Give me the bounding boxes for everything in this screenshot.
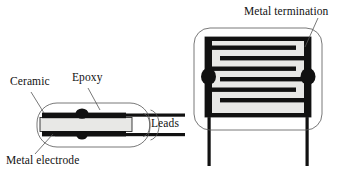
figure-canvas: Ceramic Epoxy Metal electrode Leads Meta… [0, 0, 345, 176]
capacitor-diagram [0, 0, 345, 176]
label-metal-termination: Metal termination [244, 6, 328, 18]
label-leads: Leads [151, 118, 179, 130]
label-ceramic: Ceramic [10, 76, 50, 88]
ceramic-body-left [40, 118, 132, 132]
right-front-view [194, 18, 322, 166]
label-metal-electrode: Metal electrode [6, 155, 79, 167]
leader-line-epoxy [88, 88, 100, 110]
solder-blob-left [201, 68, 216, 85]
leader-line-metal-electrode [35, 134, 53, 154]
leader-line-metal-termination [305, 18, 318, 47]
solder-blob-right [301, 68, 316, 85]
label-epoxy: Epoxy [72, 72, 103, 84]
leader-line-ceramic [31, 92, 44, 113]
